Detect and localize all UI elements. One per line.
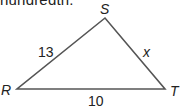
side-label-rs: 13 (38, 45, 54, 59)
vertex-label-t: T (170, 84, 179, 98)
vertex-label-r: R (1, 83, 11, 97)
side-label-rt: 10 (88, 94, 104, 108)
side-label-st: x (143, 45, 150, 59)
vertex-label-s: S (100, 2, 109, 16)
